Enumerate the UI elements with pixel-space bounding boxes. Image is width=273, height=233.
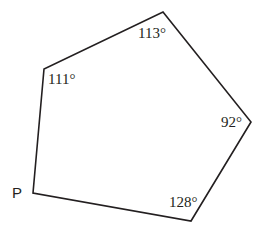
pentagon-angle-diagram: 113° 111° 92° 128° P <box>0 0 273 233</box>
vertex-label-p: P <box>12 185 22 200</box>
angle-label-113: 113° <box>138 26 166 41</box>
angle-label-128: 128° <box>169 195 198 210</box>
angle-label-111: 111° <box>48 72 75 87</box>
pentagon-outline <box>33 12 251 221</box>
angle-label-92: 92° <box>221 115 242 130</box>
